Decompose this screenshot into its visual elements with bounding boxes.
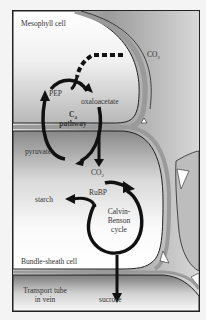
calvin-benson-cycle-label: Calvin- Benson cycle: [97, 207, 141, 234]
starch-label: starch: [35, 196, 53, 204]
c4-pathway-label: C4 pathway: [53, 111, 93, 128]
sucrose-label: sucrose: [99, 296, 122, 304]
co2-released-label: CO2: [91, 169, 104, 178]
co2-input-label: CO2: [147, 51, 160, 60]
transport-tube-label: Transport tube in vein: [17, 286, 73, 304]
pyruvate-label: pyruvate: [25, 148, 51, 156]
rubp-label: RuBP: [89, 189, 107, 197]
bundle-sheath-cell-label: Bundle-sheath cell: [21, 258, 77, 266]
mesophyll-cell-label: Mesophyll cell: [21, 20, 66, 28]
diagram-frame: Mesophyll cell CO2 PEP oxaloacetate C4 p…: [12, 10, 200, 312]
pep-label: PEP: [49, 90, 62, 98]
oxaloacetate-label: oxaloacetate: [81, 98, 118, 106]
c4-diagram-graphic: [13, 11, 199, 311]
